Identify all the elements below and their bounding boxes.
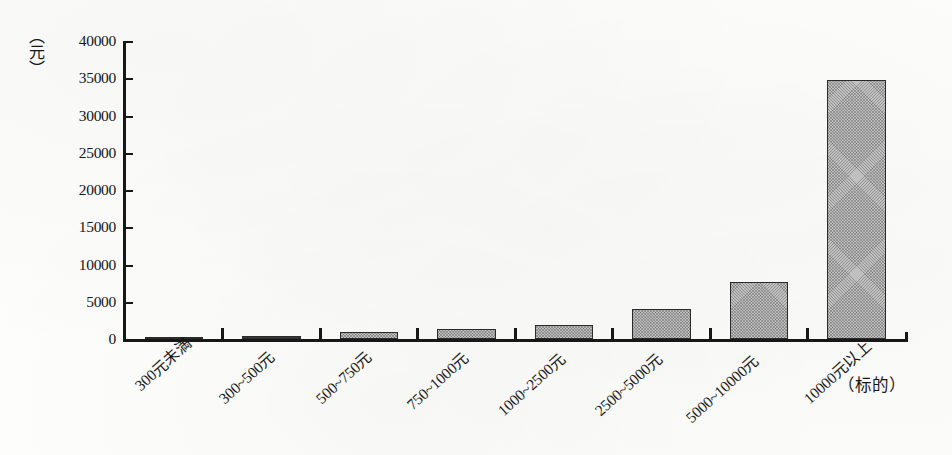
y-axis-tick-label: 0 (109, 331, 116, 347)
x-axis-line (123, 339, 907, 342)
x-axis-category-label: 300元未満 (132, 335, 194, 393)
bar (535, 325, 594, 339)
bar (242, 336, 301, 339)
y-axis-tick: 40000 (123, 41, 133, 43)
bar (632, 309, 691, 339)
x-axis-category-label: 750~1000元 (404, 350, 471, 413)
x-axis-end-tick (905, 332, 908, 342)
y-axis-tick-label: 40000 (79, 33, 116, 49)
x-axis-tick (806, 328, 809, 339)
y-axis-tick-label: 5000 (86, 294, 116, 310)
x-axis-category-label: 500~750元 (313, 348, 375, 406)
y-axis-tick-label: 35000 (79, 71, 116, 87)
x-axis-label-group: 300元未満300~500元500~750元750~1000元1000~2500… (125, 344, 905, 454)
x-axis-tick (221, 328, 224, 339)
y-axis-tick: 30000 (123, 116, 133, 118)
x-axis-category-label: 1000~2500元 (495, 351, 568, 419)
x-axis-category-label: 2500~5000元 (592, 351, 665, 419)
y-axis-title: （元） (24, 28, 44, 76)
y-axis-tick-label: 20000 (79, 182, 116, 198)
y-axis-tick-label: 15000 (79, 220, 116, 236)
y-axis-tick-label: 10000 (79, 257, 116, 273)
x-axis-tick (611, 328, 614, 339)
chart-figure: （元） （标的） 0500010000150002000025000300003… (0, 0, 952, 455)
bar (437, 329, 496, 339)
x-axis-tick (709, 328, 712, 339)
bar (340, 332, 399, 339)
x-axis-category-label: 10000元以上 (801, 338, 875, 406)
y-axis-tick: 20000 (123, 190, 133, 192)
bar (827, 80, 886, 339)
y-axis-tick: 25000 (123, 153, 133, 155)
x-axis-tick (416, 328, 419, 339)
y-axis-tick: 10000 (123, 265, 133, 267)
bar (145, 337, 204, 339)
y-axis-tick: 35000 (123, 78, 133, 80)
y-axis-tick: 0 (123, 339, 133, 341)
x-axis-tick (319, 328, 322, 339)
x-axis-category-label: 5000~10000元 (683, 352, 762, 425)
y-axis-tick-label: 25000 (79, 145, 116, 161)
y-axis-tick-label: 30000 (79, 108, 116, 124)
y-axis-tick: 15000 (123, 227, 133, 229)
bar (730, 282, 789, 339)
x-axis-category-label: 300~500元 (216, 348, 278, 406)
plot-area: 0500010000150002000025000300003500040000 (125, 42, 905, 340)
y-axis-tick: 5000 (123, 302, 133, 304)
x-axis-tick (514, 328, 517, 339)
